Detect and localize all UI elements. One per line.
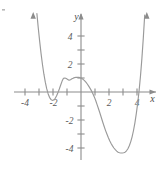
y-tick-label--2: -2 [66, 116, 74, 126]
y-tick-label-4: 4 [68, 32, 73, 42]
x-axis-label: x [149, 93, 155, 104]
x-tick-label--4: -4 [21, 98, 29, 108]
y-axis-label: y [73, 11, 79, 22]
y-axis-arrow-icon [78, 13, 83, 20]
y-tick-label--4: -4 [66, 144, 74, 154]
polynomial-curve [37, 14, 145, 153]
edge-speck-mark [2, 9, 5, 11]
y-tick-label-2: 2 [68, 60, 73, 70]
graph-figure: -4 -2 2 4 4 2 -2 -4 y x [0, 0, 166, 172]
coordinate-plot: -4 -2 2 4 4 2 -2 -4 y x [0, 0, 166, 172]
x-tick-label-2: 2 [107, 98, 112, 108]
left-branch-arrow-icon [31, 12, 36, 19]
